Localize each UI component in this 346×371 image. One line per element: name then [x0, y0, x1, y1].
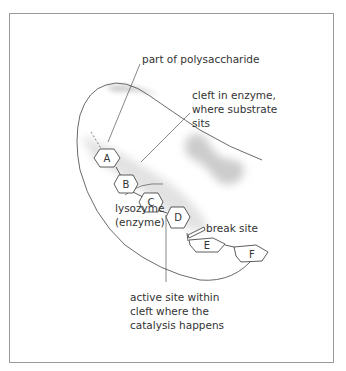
label-cleft: cleft in enzyme, where substrate sits: [192, 89, 277, 129]
sugar-unit-B: B: [114, 175, 138, 193]
svg-text:where substrate: where substrate: [192, 103, 277, 115]
sugar-unit-A: A: [94, 149, 120, 167]
label-break-site: break site: [206, 222, 258, 234]
svg-text:(enzyme): (enzyme): [115, 216, 165, 228]
svg-text:sits: sits: [192, 117, 210, 129]
svg-text:active site within: active site within: [130, 291, 219, 303]
lysozyme-diagram: A B C D E F part of polysaccharide cleft…: [0, 0, 346, 371]
svg-text:F: F: [249, 249, 255, 260]
svg-text:D: D: [174, 212, 182, 223]
svg-text:catalysis happens: catalysis happens: [130, 319, 224, 331]
svg-text:B: B: [123, 179, 130, 190]
label-polysaccharide: part of polysaccharide: [142, 53, 259, 65]
svg-text:cleft in enzyme,: cleft in enzyme,: [192, 89, 276, 101]
svg-text:E: E: [204, 240, 210, 251]
sugar-unit-F: F: [234, 245, 268, 262]
label-active-site: active site within cleft where the catal…: [130, 291, 224, 331]
sugar-unit-E: E: [189, 238, 225, 252]
svg-text:lysozyme: lysozyme: [115, 202, 164, 214]
label-lysozyme: lysozyme (enzyme): [115, 202, 165, 228]
svg-text:A: A: [104, 153, 111, 164]
svg-text:cleft where the: cleft where the: [130, 305, 209, 317]
